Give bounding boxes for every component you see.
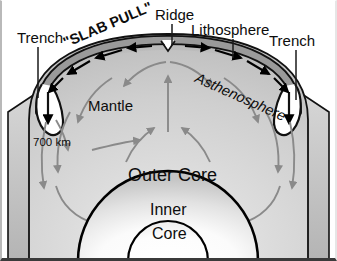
label-mantle: Mantle: [88, 98, 133, 113]
label-ridge: Ridge: [155, 7, 194, 22]
label-inner-core-line2: Core: [152, 226, 187, 242]
label-trench-left: Trench: [17, 30, 63, 45]
label-depth-700km: 700 km: [33, 137, 71, 149]
label-inner-core-line1: Inner: [150, 202, 186, 218]
label-trench-right: Trench: [269, 33, 315, 48]
earth-cross-section-figure: Trench Trench Ridge Lithosphere "SLAB PU…: [0, 0, 337, 261]
label-lithosphere: Lithosphere: [191, 22, 269, 37]
label-outer-core: Outer Core: [128, 166, 217, 184]
